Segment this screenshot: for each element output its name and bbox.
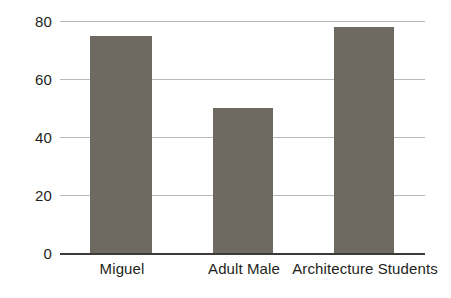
y-tick-label-80: 80 <box>4 14 52 29</box>
y-tick-label-40: 40 <box>4 130 52 145</box>
y-tick-label-60: 60 <box>4 72 52 87</box>
bar-adult-male <box>213 108 273 253</box>
y-tick-label-0: 0 <box>4 246 52 261</box>
x-tick-label-adult-male: Adult Male <box>208 259 280 279</box>
y-axis: 80 60 40 20 0 <box>0 21 52 253</box>
x-axis: Miguel Adult Male Architecture Students <box>60 259 441 283</box>
x-axis-line <box>60 253 425 255</box>
plot-area <box>60 21 425 253</box>
x-tick-label-miguel: Miguel <box>100 259 145 279</box>
bar-architecture-students <box>334 27 394 253</box>
gridline-80 <box>60 21 425 22</box>
bar-miguel <box>90 36 152 254</box>
x-tick-label-architecture-students: Architecture Students <box>292 259 438 279</box>
bar-chart: 80 60 40 20 0 Miguel Adult Male Architec… <box>0 0 451 298</box>
y-tick-label-20: 20 <box>4 188 52 203</box>
